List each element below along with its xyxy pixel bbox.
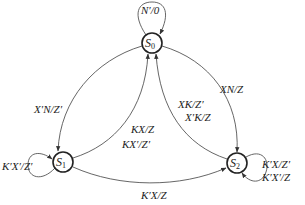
state-diagram: N′/0 X′N/Z′ KX/Z KX′/Z′ XK/Z′ X′K/Z XN/Z… [0, 0, 305, 205]
label-s1-self: K′X′/Z′ [1, 160, 33, 172]
label-s1-s2: K′X/Z [140, 189, 168, 201]
label-s0-s1: X′N/Z′ [33, 103, 63, 115]
label-s0-s2: XN/Z [219, 83, 244, 95]
edge-s1-s2 [73, 167, 226, 183]
label-s2-s0-1: XK/Z′ [177, 98, 204, 110]
label-s2-self-2: K′X′/Z [261, 171, 291, 183]
state-s0: S0 [142, 33, 162, 53]
label-s1-s0-1: KX/Z [130, 123, 155, 135]
edge-s0-s1 [58, 46, 142, 151]
state-s1: S1 [53, 152, 73, 172]
label-s2-s0-2: X′K/Z [184, 111, 212, 123]
label-s2-self-1: K′X/Z′ [261, 158, 291, 170]
label-s0-self: N′/0 [140, 4, 160, 16]
state-s2: S2 [227, 153, 247, 173]
label-s1-s0-2: KX′/Z′ [121, 138, 151, 150]
